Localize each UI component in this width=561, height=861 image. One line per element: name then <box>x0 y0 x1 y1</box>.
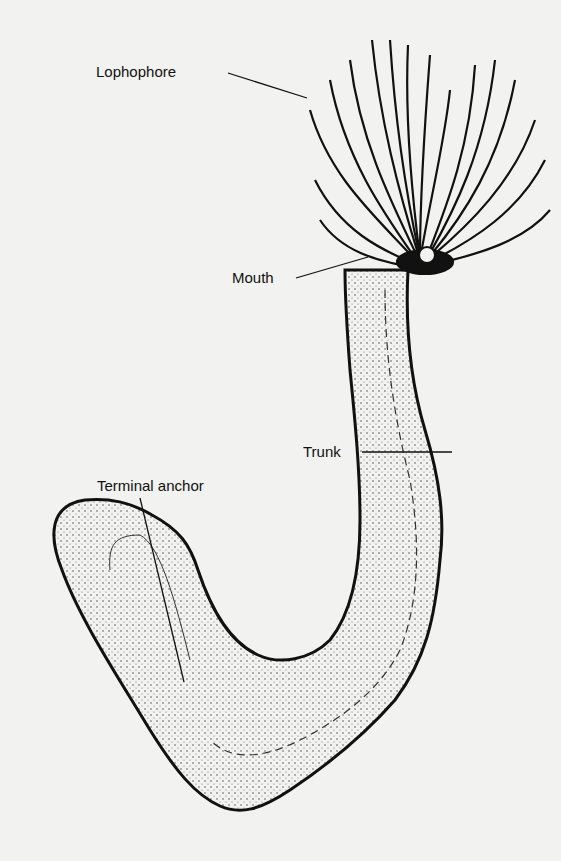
phoronid-illustration <box>0 0 561 861</box>
terminal-anchor-label: Terminal anchor <box>97 477 204 494</box>
lophophore <box>310 40 550 274</box>
mouth-label: Mouth <box>232 269 274 286</box>
trunk-label: Trunk <box>303 443 341 460</box>
trunk-outline <box>54 270 442 810</box>
lophophore-label: Lophophore <box>96 63 176 80</box>
worm-body <box>54 270 442 810</box>
lophophore-leader-line <box>228 73 307 98</box>
